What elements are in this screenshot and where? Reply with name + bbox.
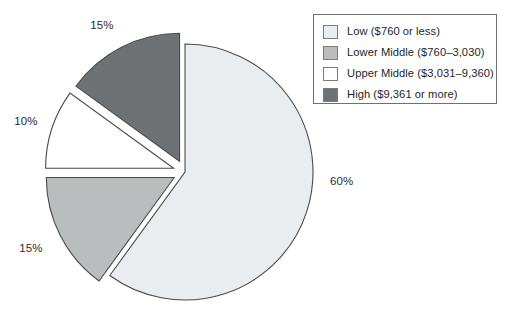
legend-item-lower-middle[interactable]: Lower Middle ($760–3,030) <box>323 43 496 63</box>
legend-label-lower-middle: Lower Middle ($760–3,030) <box>347 47 484 58</box>
pie-label-upper-middle: 10% <box>14 115 37 127</box>
legend-item-upper-middle[interactable]: Upper Middle ($3,031–9,360) <box>323 64 496 84</box>
pie-label-low: 60% <box>330 175 353 187</box>
legend-label-upper-middle: Upper Middle ($3,031–9,360) <box>347 68 494 79</box>
legend: Low ($760 or less) Lower Middle ($760–3,… <box>313 14 497 104</box>
legend-swatch-low <box>323 25 338 39</box>
legend-item-low[interactable]: Low ($760 or less) <box>323 22 496 42</box>
pie-label-high: 15% <box>90 19 113 31</box>
legend-item-high[interactable]: High ($9,361 or more) <box>323 85 496 105</box>
legend-swatch-high <box>323 88 338 102</box>
legend-swatch-upper-middle <box>323 67 338 81</box>
pie-label-lower-middle: 15% <box>19 242 42 254</box>
legend-label-low: Low ($760 or less) <box>347 26 440 37</box>
pie-chart-figure: 15% 10% 15% 60% Low ($760 or less) Lower… <box>0 0 512 323</box>
legend-label-high: High ($9,361 or more) <box>347 89 458 100</box>
legend-swatch-lower-middle <box>323 46 338 60</box>
